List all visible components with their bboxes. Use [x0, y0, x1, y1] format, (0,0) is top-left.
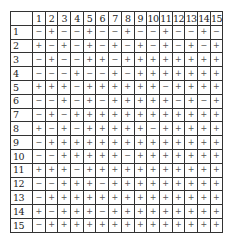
sign-cell: + [210, 108, 223, 122]
sign-cell: + [58, 122, 71, 136]
sign-cell: + [96, 149, 109, 163]
sign-cell: + [33, 163, 46, 177]
column-header: 1 [33, 12, 46, 26]
sign-cell: + [58, 80, 71, 94]
sign-cell: − [33, 149, 46, 163]
sign-cell: + [159, 122, 172, 136]
sign-cell: + [58, 39, 71, 53]
sign-cell: + [96, 108, 109, 122]
sign-cell: + [197, 25, 210, 39]
sign-cell: + [83, 177, 96, 191]
sign-cell: + [159, 53, 172, 67]
sign-cell: + [121, 205, 134, 219]
sign-cell: + [83, 39, 96, 53]
sign-cell: + [172, 149, 185, 163]
sign-cell: + [185, 80, 198, 94]
sign-cell: − [172, 39, 185, 53]
sign-cell: + [197, 177, 210, 191]
sign-cell: + [210, 163, 223, 177]
sign-cell: − [71, 163, 84, 177]
sign-cell: + [96, 191, 109, 205]
sign-cell: + [71, 108, 84, 122]
row-header: 4 [11, 67, 33, 81]
sign-cell: + [185, 177, 198, 191]
row-header: 12 [11, 177, 33, 191]
sign-cell: − [45, 205, 58, 219]
column-header: 5 [83, 12, 96, 26]
sign-cell: + [197, 136, 210, 150]
sign-cell: + [83, 53, 96, 67]
sign-cell: + [33, 122, 46, 136]
sign-cell: − [58, 53, 71, 67]
sign-cell: − [134, 25, 147, 39]
sign-cell: + [45, 25, 58, 39]
row-header: 1 [11, 25, 33, 39]
sign-cell: + [210, 136, 223, 150]
sign-cell: − [109, 53, 122, 67]
table-row: 14+−+++−+++++++++ [11, 205, 223, 219]
sign-cell: + [109, 136, 122, 150]
sign-cell: + [71, 218, 84, 232]
sign-cell: + [109, 94, 122, 108]
sign-cell: + [172, 67, 185, 81]
sign-cell: + [109, 218, 122, 232]
sign-cell: + [197, 108, 210, 122]
row-header: 5 [11, 80, 33, 94]
sign-cell: − [45, 149, 58, 163]
row-header: 3 [11, 53, 33, 67]
sign-cell: + [159, 25, 172, 39]
sign-cell: + [134, 108, 147, 122]
sign-cell: + [45, 136, 58, 150]
sign-cell: + [83, 205, 96, 219]
sign-cell: + [134, 39, 147, 53]
sign-cell: + [197, 205, 210, 219]
sign-cell: + [210, 53, 223, 67]
sign-cell: + [172, 191, 185, 205]
sign-cell: + [83, 191, 96, 205]
sign-cell: − [159, 80, 172, 94]
sign-cell: + [147, 108, 160, 122]
column-header: 8 [121, 12, 134, 26]
sign-cell: + [147, 94, 160, 108]
sign-cell: + [185, 191, 198, 205]
sign-cell: + [147, 67, 160, 81]
sign-cell: + [147, 149, 160, 163]
sign-cell: − [147, 25, 160, 39]
sign-cell: + [210, 39, 223, 53]
sign-cell: + [159, 177, 172, 191]
table-row: 15−++++++++++++++ [11, 218, 223, 232]
sign-cell: − [33, 53, 46, 67]
sign-cell: + [71, 205, 84, 219]
sign-cell: − [71, 122, 84, 136]
column-header: 15 [210, 12, 223, 26]
column-header: 13 [185, 12, 198, 26]
sign-cell: − [172, 94, 185, 108]
sign-cell: + [185, 149, 198, 163]
sign-cell: + [109, 205, 122, 219]
sign-cell: + [210, 149, 223, 163]
sign-cell: + [96, 80, 109, 94]
sign-cell: + [71, 149, 84, 163]
table-row: 11+++−+++++++++++ [11, 163, 223, 177]
sign-cell: + [159, 136, 172, 150]
sign-cell: + [185, 67, 198, 81]
sign-cell: + [185, 53, 198, 67]
sign-cell: + [147, 191, 160, 205]
column-header: 11 [159, 12, 172, 26]
sign-cell: + [172, 136, 185, 150]
table-row: 13−++++++++++++++ [11, 191, 223, 205]
row-header: 15 [11, 218, 33, 232]
sign-cell: − [96, 205, 109, 219]
column-header: 3 [58, 12, 71, 26]
sign-cell: + [121, 108, 134, 122]
sign-cell: − [58, 67, 71, 81]
sign-cell: + [58, 177, 71, 191]
sign-cell: + [71, 67, 84, 81]
sign-cell: + [134, 218, 147, 232]
sign-cell: + [134, 191, 147, 205]
sign-matrix-table: 123456789101112131415 1−+−−+−−+−−+−−+−2+… [10, 11, 223, 233]
sign-cell: + [109, 108, 122, 122]
column-header: 7 [109, 12, 122, 26]
sign-cell: + [147, 205, 160, 219]
sign-cell: + [96, 53, 109, 67]
